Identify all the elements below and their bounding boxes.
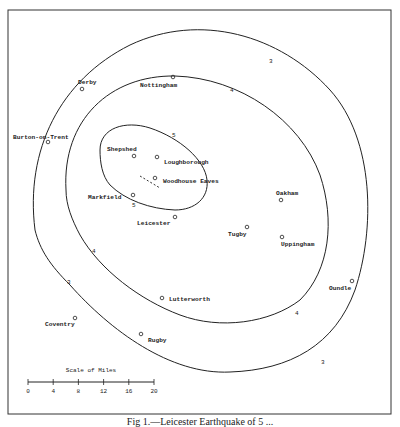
place-marker-icon bbox=[132, 154, 136, 158]
place-label: Rugby bbox=[148, 337, 167, 344]
place-label: Coventry bbox=[45, 321, 75, 328]
isoseismal-label: 5 bbox=[172, 132, 176, 139]
scale-tick-label: 0 bbox=[26, 388, 30, 395]
place-label: Loughborough bbox=[164, 159, 209, 166]
place-label: Nottingham bbox=[140, 82, 177, 89]
isoseismal-label: 3 bbox=[321, 359, 325, 366]
place-marker-icon bbox=[139, 332, 143, 336]
place-marker-icon bbox=[80, 87, 84, 91]
isoseismal-label: 4 bbox=[92, 248, 96, 255]
scale-tick-label: 4 bbox=[51, 388, 55, 395]
place-label: Leicester bbox=[137, 220, 171, 227]
place-label: Tugby bbox=[228, 231, 247, 238]
place-label: Derby bbox=[78, 79, 97, 86]
scale-bar: 048121620 Scale of Miles bbox=[26, 367, 158, 395]
place-marker-icon bbox=[350, 279, 354, 283]
figure-caption: Fig 1.—Leicester Earthquake of 5 ... bbox=[0, 416, 400, 427]
place-label: Markfield bbox=[88, 194, 122, 201]
place-label: Burton-on-Trent bbox=[13, 134, 69, 141]
place-marker-icon bbox=[73, 316, 77, 320]
place-marker-icon bbox=[245, 225, 249, 229]
scale-tick-label: 12 bbox=[100, 388, 108, 395]
isoseismal-label: 3 bbox=[269, 58, 273, 65]
place-marker-icon bbox=[155, 155, 159, 159]
scale-tick-label: 8 bbox=[77, 388, 81, 395]
scale-title: Scale of Miles bbox=[66, 367, 117, 374]
place-marker-icon bbox=[160, 296, 164, 300]
place-marker-icon bbox=[153, 176, 157, 180]
place-label: Oundle bbox=[329, 285, 352, 292]
place-label: Uppingham bbox=[281, 241, 315, 248]
isoseismal-label: 5 bbox=[132, 202, 136, 209]
place-marker-icon bbox=[173, 215, 177, 219]
place-label: Oakham bbox=[276, 190, 299, 197]
place-marker-icon bbox=[280, 235, 284, 239]
isoseismal-label: 4 bbox=[230, 87, 234, 94]
isoseismal-label: 3 bbox=[67, 279, 71, 286]
scale-tick-label: 20 bbox=[150, 388, 158, 395]
place-label: Lutterworth bbox=[169, 296, 210, 303]
place-marker-icon bbox=[279, 198, 283, 202]
place-label: Shepshed bbox=[107, 146, 137, 153]
map-frame bbox=[8, 10, 391, 414]
place-label: Woodhouse Eaves bbox=[163, 178, 219, 185]
place-marker-icon bbox=[131, 193, 135, 197]
isoseismal-label: 4 bbox=[295, 310, 299, 317]
scale-tick-label: 16 bbox=[125, 388, 133, 395]
